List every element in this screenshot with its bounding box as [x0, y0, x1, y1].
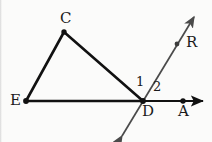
- point-label-D: D: [142, 104, 154, 119]
- geometry-figure: C E D A R 1 2: [0, 0, 212, 142]
- point-label-E: E: [10, 93, 21, 108]
- point-label-R: R: [186, 35, 197, 50]
- segment-EC: [26, 32, 64, 101]
- vertex-dot-E: [23, 98, 29, 104]
- segment-CD: [64, 32, 143, 101]
- vertex-dot-R: [175, 42, 180, 47]
- vertex-dot-C: [61, 29, 66, 34]
- angle-label-1: 1: [136, 75, 144, 88]
- point-label-A: A: [178, 104, 189, 119]
- point-label-C: C: [60, 11, 71, 26]
- angle-label-2: 2: [153, 80, 161, 93]
- geometry-canvas: [0, 0, 212, 142]
